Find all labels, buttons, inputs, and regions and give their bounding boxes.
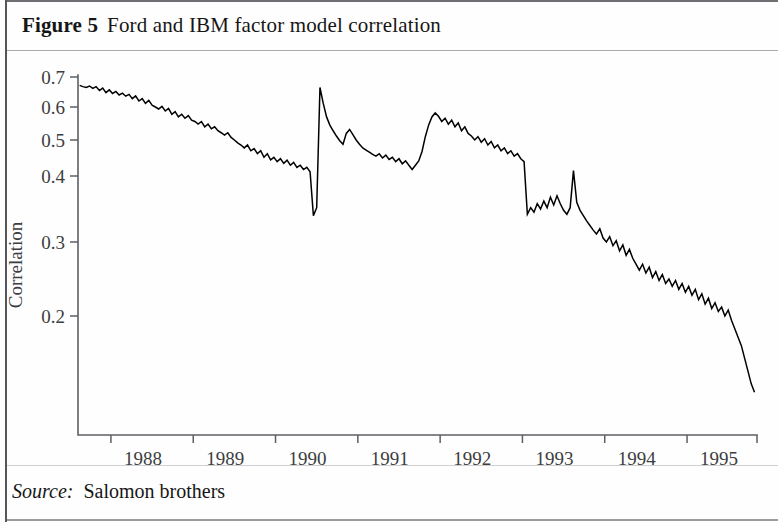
y-tick-label: 0.3	[41, 232, 65, 253]
x-tick-label: 1989	[206, 448, 244, 465]
source-value: Salomon brothers	[83, 480, 225, 502]
figure-container: Figure 5Ford and IBM factor model correl…	[0, 0, 778, 522]
page-top-rule	[7, 0, 778, 2]
x-tick-label: 1995	[700, 448, 738, 465]
correlation-line-chart: 0.20.30.40.50.60.7 198819891990199119921…	[0, 50, 778, 465]
figure-number: Figure 5	[22, 13, 98, 37]
x-tick-label: 1992	[453, 448, 491, 465]
y-axis-ticks: 0.20.30.40.50.60.7	[41, 67, 78, 327]
x-tick-label: 1988	[124, 448, 162, 465]
y-tick-label: 0.5	[41, 130, 65, 151]
axis-frame	[78, 75, 757, 435]
y-tick-label: 0.7	[41, 67, 65, 88]
caption-divider	[7, 465, 778, 466]
y-axis-title: Correlation	[5, 221, 26, 308]
chart-plot-area: 0.20.30.40.50.60.7 198819891990199119921…	[0, 50, 778, 465]
figure-source: Source:Salomon brothers	[12, 480, 225, 503]
y-tick-label: 0.4	[41, 166, 65, 187]
x-tick-label: 1994	[618, 448, 657, 465]
x-tick-label: 1993	[535, 448, 573, 465]
x-tick-label: 1990	[289, 448, 327, 465]
source-label: Source:	[12, 480, 73, 502]
figure-title: Figure 5Ford and IBM factor model correl…	[22, 13, 441, 38]
series-line-correlation	[80, 85, 755, 392]
y-tick-label: 0.6	[41, 97, 65, 118]
page-bottom-rule	[7, 519, 778, 521]
y-tick-label: 0.2	[41, 306, 65, 327]
x-tick-label: 1991	[371, 448, 409, 465]
x-axis-ticks: 19881989199019911992199319941995	[111, 435, 757, 465]
figure-title-text: Ford and IBM factor model correlation	[107, 13, 441, 37]
